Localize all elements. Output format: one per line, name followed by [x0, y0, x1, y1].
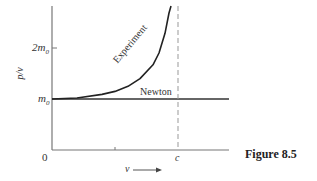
x-arrow-head [156, 168, 162, 173]
x-axis-label: v [125, 164, 129, 174]
c-label: c [175, 153, 179, 163]
label-m0: m0 [38, 93, 49, 107]
label-2m0-sub: 0 [45, 48, 49, 56]
newton-label: Newton [140, 87, 172, 97]
label-m0-sub: 0 [46, 99, 50, 107]
origin-label: 0 [42, 152, 48, 163]
label-m0-text: m [38, 92, 46, 104]
label-2m0-text: 2m [32, 41, 45, 53]
figure-caption: Figure 8.5 [245, 147, 297, 162]
y-axis-label: p/v [14, 67, 25, 79]
label-2m0: 2m0 [32, 42, 49, 56]
